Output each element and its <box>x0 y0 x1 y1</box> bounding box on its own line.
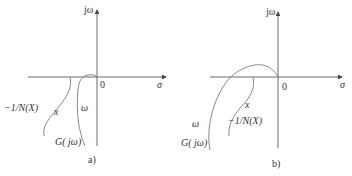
panel-b-nyquist-curve <box>209 65 278 150</box>
panel-a-caption: a) <box>88 155 96 165</box>
panel-a-real-axis-label: σ <box>157 80 162 90</box>
panel-a-nyquist-label: G( jω) <box>55 137 81 147</box>
panel-b-nyquist-label: G( jω) <box>181 138 207 148</box>
panel-a-describing-function-label: −1/N(X) <box>4 103 38 113</box>
panel-a-x-param-label: x <box>54 107 58 117</box>
panel-b-x-param-label: x <box>245 100 249 110</box>
panel-a-omega-param-label: ω <box>81 103 88 113</box>
panel-a-imag-axis-label: jω <box>84 5 93 15</box>
panel-b-imag-axis-label: jω <box>266 7 275 17</box>
diagram-canvas <box>0 0 352 176</box>
panel-b-real-axis-label: σ <box>340 80 345 90</box>
panel-b-caption: b) <box>272 159 280 169</box>
panel-a-axes <box>28 10 166 146</box>
panel-b-origin-label: 0 <box>282 82 287 92</box>
panel-b-describing-function-label: −1/N(X) <box>228 116 262 126</box>
panel-b-omega-param-label: ω <box>192 119 199 129</box>
panel-b-describing-function-curve <box>229 77 254 136</box>
panel-a-origin-label: 0 <box>100 80 105 90</box>
